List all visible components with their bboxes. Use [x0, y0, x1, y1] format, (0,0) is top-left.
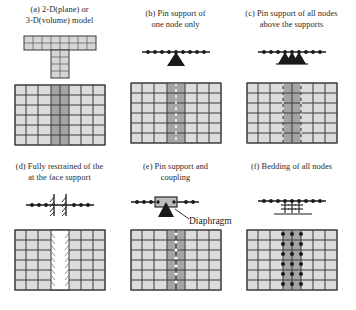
panel-e: (e) Pin support and coupling D — [118, 155, 233, 310]
diaphragm-leader-line — [175, 209, 189, 219]
fixed-face-support-icon — [26, 194, 94, 216]
panel-c-symbol — [234, 38, 349, 80]
support-conditions-figure: (a) 2-D(plane) or 3-D(volume) model — [0, 0, 356, 310]
diaphragm-label: Diaphragm — [189, 216, 232, 226]
t-shape-mesh-icon — [24, 36, 96, 78]
panel-f-mesh — [234, 229, 349, 295]
panel-b-mesh — [118, 82, 233, 148]
panel-f-caption-line1: (f) Bedding of all nodes — [251, 162, 332, 171]
panel-a-caption: (a) 2-D(plane) or 3-D(volume) model — [2, 4, 117, 26]
panel-e-caption-line2: coupling — [118, 172, 233, 183]
panel-c: (c) Pin support of all nodes above the s… — [234, 0, 349, 155]
panel-d-caption-line1: (d) Fully restrained of the — [16, 162, 103, 171]
panel-d-caption: (d) Fully restrained of the at the face … — [2, 161, 117, 183]
panel-a-caption-line1: (a) 2-D(plane) or — [30, 5, 88, 14]
panel-b-caption-line2: one node only — [118, 19, 233, 30]
panel-f: (f) Bedding of all nodes — [234, 155, 349, 310]
panel-f-symbol — [234, 189, 349, 231]
panel-c-caption: (c) Pin support of all nodes above the s… — [234, 8, 349, 30]
panel-e-caption: (e) Pin support and coupling — [118, 161, 233, 183]
panel-c-caption-line2: above the supports — [234, 19, 349, 30]
panel-b: (b) Pin support of one node only — [118, 0, 233, 155]
mesh-grid — [15, 230, 105, 290]
mesh-grid — [247, 83, 337, 143]
pin-support-single-node-icon — [142, 50, 210, 66]
panel-e-caption-line1: (e) Pin support and — [143, 162, 208, 171]
panel-b-caption: (b) Pin support of one node only — [118, 8, 233, 30]
bedding-springs-icon — [258, 199, 326, 214]
panel-a: (a) 2-D(plane) or 3-D(volume) model — [2, 0, 117, 155]
mesh-grid — [15, 85, 105, 145]
panel-e-mesh — [118, 229, 233, 295]
panel-a-mesh — [2, 84, 117, 150]
mesh-grid — [131, 230, 221, 290]
panel-a-symbol — [2, 34, 117, 82]
panel-a-caption-line2: 3-D(volume) model — [2, 15, 117, 26]
panel-d: (d) Fully restrained of the at the face … — [2, 155, 117, 310]
panel-b-symbol — [118, 38, 233, 80]
panel-d-caption-line2: at the face support — [2, 172, 117, 183]
mesh-grid — [247, 230, 337, 290]
spring-symbols — [281, 201, 303, 213]
panel-f-caption: (f) Bedding of all nodes — [234, 161, 349, 172]
panel-b-caption-line1: (b) Pin support of — [145, 9, 205, 18]
panel-e-symbol: Diaphragm — [118, 189, 233, 231]
panel-c-caption-line1: (c) Pin support of all nodes — [245, 9, 337, 18]
pin-support-all-nodes-icon — [258, 50, 326, 64]
panel-d-symbol — [2, 189, 117, 231]
mesh-grid — [131, 83, 221, 143]
panel-d-mesh — [2, 229, 117, 295]
panel-c-mesh — [234, 82, 349, 148]
